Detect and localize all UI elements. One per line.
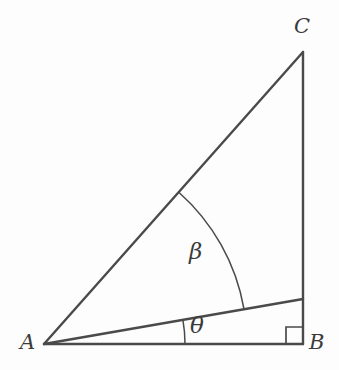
- vertex-label-b: B: [309, 332, 324, 353]
- vertex-label-a: A: [20, 332, 35, 353]
- angle-label-beta: β: [189, 240, 202, 263]
- segment-ac: [44, 52, 303, 344]
- vertex-label-c: C: [294, 16, 310, 37]
- triangle-sides-group: [44, 52, 303, 344]
- right-angle-marker: [286, 327, 303, 344]
- ray-ad-angle-divider: [44, 299, 303, 344]
- triangle-diagram-svg: [0, 0, 339, 370]
- angle-label-theta: θ: [190, 314, 204, 337]
- geometry-figure: A B C β θ: [0, 0, 339, 370]
- angle-arc-theta: [183, 320, 185, 344]
